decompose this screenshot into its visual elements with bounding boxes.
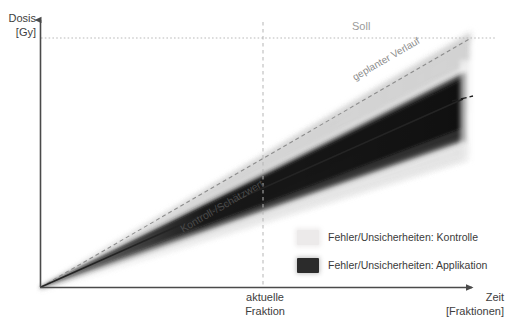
figure-canvas: Dosis [Gy] Soll geplanter Verlauf Kontro… bbox=[0, 0, 508, 324]
legend-label-kontrolle: Fehler/Unsicherheiten: Kontrolle bbox=[328, 231, 478, 243]
soll-label: Soll bbox=[352, 20, 370, 33]
legend-item-applikation: Fehler/Unsicherheiten: Applikation bbox=[297, 254, 487, 276]
legend-label-applikation: Fehler/Unsicherheiten: Applikation bbox=[328, 259, 487, 271]
x-axis-title-block: Zeit [Fraktionen] bbox=[400, 290, 504, 318]
current-fraction-tick-label: aktuelle Fraktion bbox=[237, 290, 293, 318]
current-fraction-label-line2: Fraktion bbox=[237, 304, 293, 318]
y-axis-title: Dosis bbox=[8, 12, 36, 25]
y-axis-unit: [Gy] bbox=[6, 26, 36, 39]
legend-swatch-applikation-icon bbox=[297, 258, 319, 273]
x-axis-unit: [Fraktionen] bbox=[400, 304, 504, 318]
legend-item-kontrolle: Fehler/Unsicherheiten: Kontrolle bbox=[297, 226, 487, 248]
cone-right-feather bbox=[460, 40, 508, 180]
legend: Fehler/Unsicherheiten: Kontrolle Fehler/… bbox=[297, 226, 487, 282]
x-axis-title: Zeit bbox=[400, 290, 504, 304]
current-fraction-label-line1: aktuelle bbox=[237, 290, 293, 304]
legend-swatch-kontrolle-icon bbox=[297, 230, 319, 245]
